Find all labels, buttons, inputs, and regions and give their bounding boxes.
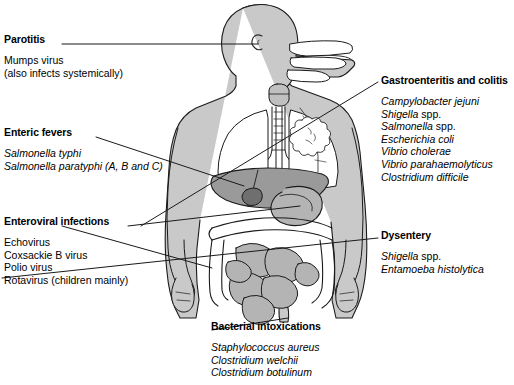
list-item: Shigella <box>381 108 418 120</box>
label-block-dysentery: Dysentery Shigella spp. Entamoeba histol… <box>381 229 484 275</box>
list-item: Echovirus <box>4 236 128 249</box>
list-item: (also infects systemically) <box>4 67 123 80</box>
label-header-bacterial-intoxications: Bacterial intoxications <box>211 320 321 332</box>
label-block-enteric-fevers: Enteric fevers Salmonella typhi Salmonel… <box>4 126 163 172</box>
list-item: Shigella <box>381 250 418 262</box>
gallbladder <box>242 188 262 206</box>
label-block-gastroenteritis-and-colitis: Gastroenteritis and colitis Campylobacte… <box>381 74 508 183</box>
list-item: Vibrio parahaemolyticus <box>381 158 493 170</box>
label-list-parotitis: Mumps virus (also infects systemically) <box>4 54 123 79</box>
label-block-enteroviral-infections: Enteroviral infections Echovirus Coxsack… <box>4 215 128 286</box>
list-item: Entamoeba histolytica <box>381 263 484 275</box>
label-list-dysentery: Shigella spp. Entamoeba histolytica <box>381 250 484 275</box>
label-list-gastroenteritis-and-colitis: Campylobacter jejuni Shigella spp. Salmo… <box>381 95 508 183</box>
larynx <box>269 84 289 106</box>
label-list-enteric-fevers: Salmonella typhi Salmonella paratyphi (A… <box>4 147 163 172</box>
lobulated-organ <box>289 117 330 156</box>
diagram-canvas: Parotitis Mumps virus (also infects syst… <box>0 0 514 385</box>
ascending-colon <box>209 240 228 306</box>
list-item: Clostridium botulinum <box>211 366 321 379</box>
list-item: Salmonella <box>381 120 433 132</box>
list-item: Coxsackie B virus <box>4 249 128 262</box>
list-item-suffix: spp. <box>433 120 456 132</box>
label-header-enteric-fevers: Enteric fevers <box>4 126 163 138</box>
list-item: Vibrio cholerae <box>381 145 451 157</box>
label-list-bacterial-intoxications: Staphylococcus aureus Clostridium welchi… <box>211 341 321 379</box>
list-item: Rotavirus (children mainly) <box>4 274 128 287</box>
label-list-enteroviral-infections: Echovirus Coxsackie B virus Polio virus … <box>4 236 128 286</box>
label-header-enteroviral-infections: Enteroviral infections <box>4 215 128 227</box>
label-block-parotitis: Parotitis Mumps virus (also infects syst… <box>4 33 123 79</box>
list-item: Mumps virus <box>4 54 123 67</box>
list-item-suffix: spp. <box>418 250 441 262</box>
list-item: Campylobacter jejuni <box>381 95 479 107</box>
label-header-gastroenteritis-and-colitis: Gastroenteritis and colitis <box>381 74 508 86</box>
list-item: Clostridium welchii <box>211 354 321 367</box>
list-item: Clostridium difficile <box>381 171 469 183</box>
label-header-parotitis: Parotitis <box>4 33 123 45</box>
small-intestine <box>226 243 319 324</box>
list-item: Salmonella paratyphi (A, B and C) <box>4 160 163 173</box>
list-item: Staphylococcus aureus <box>211 341 321 354</box>
label-block-bacterial-intoxications: Bacterial intoxications Staphylococcus a… <box>211 320 321 379</box>
list-item: Polio virus <box>4 261 128 274</box>
list-item: Salmonella typhi <box>4 147 163 160</box>
label-header-dysentery: Dysentery <box>381 229 484 241</box>
list-item: Escherichia coli <box>381 133 454 145</box>
list-item-suffix: spp. <box>418 108 441 120</box>
